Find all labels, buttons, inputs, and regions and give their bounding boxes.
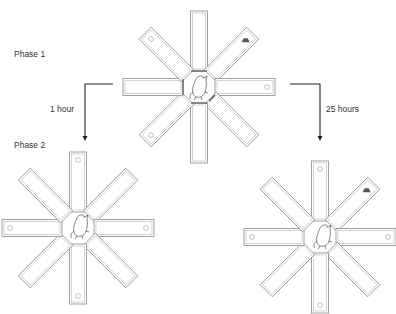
- maze-phase1: [123, 11, 275, 163]
- delay-25hours-label: 25 hours: [326, 104, 359, 114]
- rat-icon: [71, 215, 89, 239]
- phase1-label: Phase 1: [14, 49, 45, 59]
- diagram-canvas: [0, 0, 396, 314]
- delay-1hour-label: 1 hour: [50, 104, 74, 114]
- rat-icon: [190, 76, 208, 100]
- arrow-25hours: [290, 84, 323, 141]
- maze-phase2-25hours: [244, 161, 396, 313]
- rat-icon: [314, 225, 332, 249]
- arrow-1hour: [83, 84, 114, 141]
- phase2-label: Phase 2: [14, 140, 45, 150]
- maze-phase2-1hour: [2, 152, 154, 304]
